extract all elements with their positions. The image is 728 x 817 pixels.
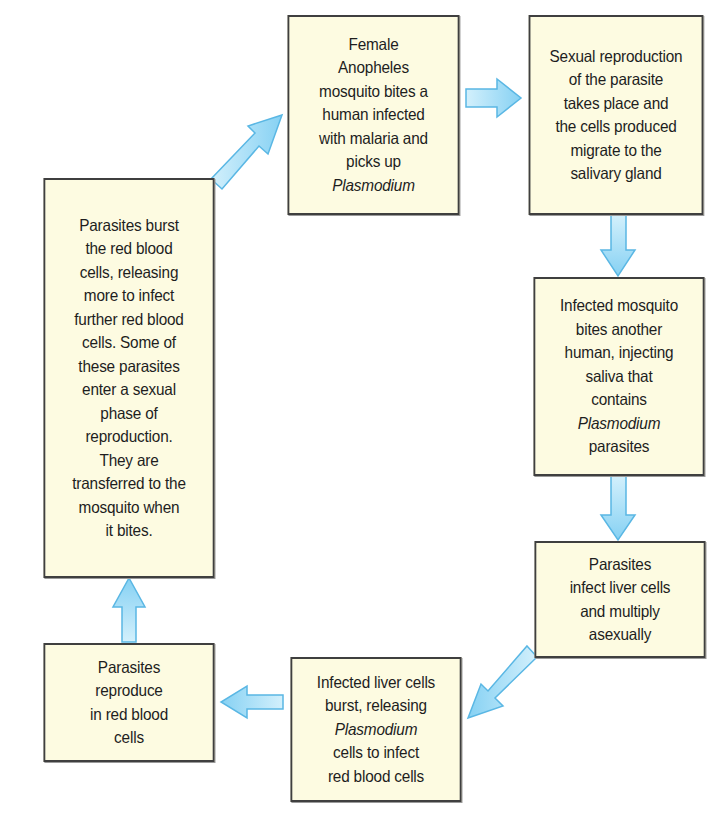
node-line: of the parasite [569, 68, 663, 92]
node-line: reproduce [95, 679, 162, 703]
arrow-up-icon [113, 578, 145, 642]
node-line: mosquito when [79, 496, 180, 520]
node-infect-liver-cells: Parasites infect liver cells and multipl… [534, 541, 705, 658]
arrow-up-right-icon [211, 115, 282, 189]
node-sexual-reproduction: Sexual reproduction of the parasite take… [529, 15, 704, 215]
node-line: bites another [576, 318, 662, 342]
node-line: human, injecting [565, 341, 674, 365]
node-line: transferred to the [72, 472, 186, 496]
species-name: Plasmodium [335, 718, 418, 742]
node-line: enter a sexual [82, 378, 176, 402]
arrow-down-left-icon [468, 646, 537, 718]
node-line: Parasites burst [79, 214, 179, 238]
node-line: cells. Some of [82, 331, 176, 355]
node-line: reproduction. [85, 425, 172, 449]
node-line: and multiply [580, 600, 660, 624]
node-line: the red blood [85, 237, 172, 261]
arrow-down-icon [601, 215, 635, 276]
arrow-right-icon [466, 79, 521, 117]
node-line: takes place and [564, 92, 669, 116]
node-line: picks up [346, 150, 401, 174]
node-line: infect liver cells [570, 576, 671, 600]
node-line: further red blood [74, 308, 183, 332]
node-line: in red blood [90, 703, 168, 727]
node-liver-cells-burst: Infected liver cells burst, releasing Pl… [290, 657, 461, 802]
node-line: red blood cells [328, 765, 424, 789]
node-line: asexually [589, 623, 651, 647]
node-line: cells [114, 726, 144, 750]
node-line: more to infect [84, 284, 174, 308]
node-line: Infected mosquito [560, 294, 678, 318]
node-reproduce-in-red-blood-cells: Parasites reproduce in red blood cells [43, 643, 214, 762]
species-name: Plasmodium [578, 412, 661, 436]
node-line: contains [591, 388, 647, 412]
node-line: Sexual reproduction [550, 45, 683, 69]
node-line: burst, releasing [325, 694, 427, 718]
node-line: parasites [589, 435, 650, 459]
node-line: saliva that [585, 365, 652, 389]
arrow-left-icon [221, 686, 283, 718]
species-name: Plasmodium [332, 174, 415, 198]
node-line: Anopheles [338, 56, 409, 80]
node-line: phase of [100, 402, 157, 426]
node-line: human infected [322, 103, 424, 127]
node-burst-red-blood-cells: Parasites burst the red blood cells, rel… [43, 178, 214, 578]
node-line: They are [99, 449, 158, 473]
arrow-down-icon [601, 476, 635, 540]
node-line: Parasites [589, 553, 651, 577]
node-line: Parasites [98, 656, 160, 680]
node-line: Infected liver cells [317, 671, 435, 695]
node-line: these parasites [78, 355, 179, 379]
node-mosquito-bites-another-human: Infected mosquito bites another human, i… [533, 277, 704, 476]
node-line: migrate to the [570, 139, 661, 163]
node-line: the cells produced [555, 115, 676, 139]
node-line: mosquito bites a [319, 80, 428, 104]
node-line: cells to infect [333, 741, 419, 765]
node-line: with malaria and [319, 127, 428, 151]
node-line: cells, releasing [80, 261, 179, 285]
node-mosquito-bites-infected-human: Female Anopheles mosquito bites a human … [287, 15, 459, 215]
node-line: Female [348, 33, 398, 57]
node-line: salivary gland [570, 162, 661, 186]
node-line: it bites. [106, 519, 153, 543]
